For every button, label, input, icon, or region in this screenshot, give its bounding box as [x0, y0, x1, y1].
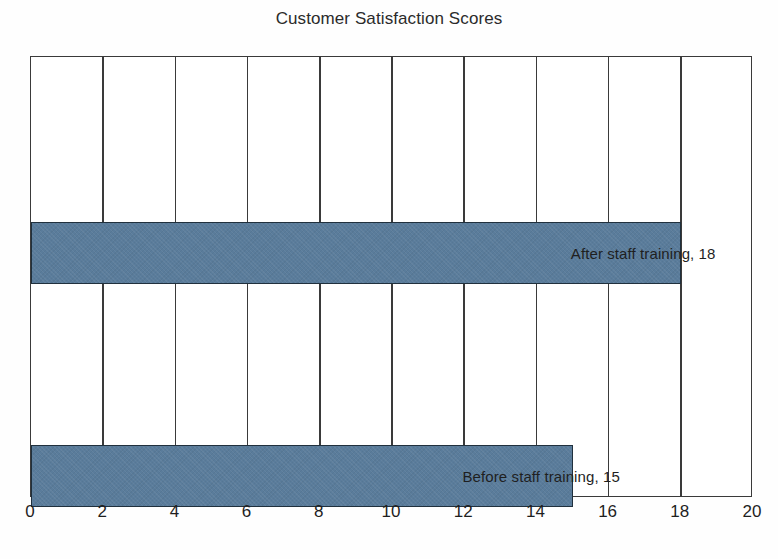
x-tick-label: 10: [382, 502, 401, 522]
chart-title: Customer Satisfaction Scores: [0, 9, 778, 29]
x-tick-label: 4: [170, 502, 179, 522]
x-tick-label: 14: [526, 502, 545, 522]
x-tick-label: 6: [242, 502, 251, 522]
x-tick-label: 20: [743, 502, 762, 522]
x-tick-label: 2: [97, 502, 106, 522]
bar-data-label: Before staff training, 15: [463, 467, 620, 484]
x-tick-label: 16: [598, 502, 617, 522]
x-tick-label: 8: [314, 502, 323, 522]
bar-data-label: After staff training, 18: [571, 244, 716, 261]
x-tick-label: 18: [670, 502, 689, 522]
x-tick-label: 12: [454, 502, 473, 522]
plot-area: After staff training, 18Before staff tra…: [30, 56, 752, 497]
x-tick-label: 0: [25, 502, 34, 522]
bar-chart: Customer Satisfaction Scores After staff…: [0, 0, 778, 559]
x-axis-tick-labels: 02468101214161820: [0, 502, 778, 532]
